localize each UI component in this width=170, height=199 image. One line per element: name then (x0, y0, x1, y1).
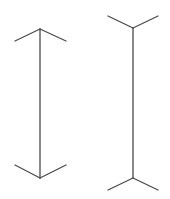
bottom-left-fin (108, 178, 133, 190)
bottom-left-fin (15, 165, 40, 178)
figure-fins-outward (108, 16, 158, 190)
figure-arrowheads-inward (15, 29, 66, 178)
top-left-fin (15, 29, 40, 41)
top-right-fin (133, 16, 158, 28)
muller-lyer-diagram (0, 0, 170, 199)
bottom-right-fin (40, 165, 66, 178)
bottom-right-fin (133, 178, 158, 190)
top-left-fin (108, 16, 133, 28)
top-right-fin (40, 29, 66, 41)
